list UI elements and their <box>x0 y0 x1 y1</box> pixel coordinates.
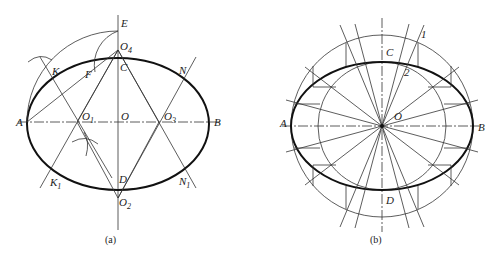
center-point-b <box>380 124 384 128</box>
line-o2-o3 <box>118 122 159 198</box>
figure-a: E O4 C K F N A O1 O O3 B K1 D N1 O2 (a) <box>15 15 221 246</box>
label-O2: O2 <box>119 196 131 211</box>
label-B: B <box>478 121 485 133</box>
label-A: A <box>279 117 287 129</box>
label-K: K <box>51 65 60 77</box>
label-D: D <box>385 194 394 206</box>
label-O4: O4 <box>120 40 132 55</box>
label-K1: K1 <box>49 176 61 191</box>
line-k-o2 <box>40 57 112 178</box>
label-C: C <box>120 61 128 73</box>
figure-b: C 1 2 A O B D (b) <box>279 18 485 246</box>
bisector-arc-bottom <box>72 138 98 144</box>
label-E: E <box>120 17 128 29</box>
ellipse-construction-figure: E O4 C K F N A O1 O O3 B K1 D N1 O2 (a) <box>0 0 499 261</box>
line-o2-o1 <box>77 122 118 198</box>
caption-b: (b) <box>370 234 382 246</box>
label-O3: O3 <box>164 110 176 125</box>
label-O1: O1 <box>82 110 94 125</box>
caption-a: (a) <box>105 234 116 246</box>
label-D: D <box>118 173 127 185</box>
label-2: 2 <box>404 66 410 78</box>
label-O: O <box>394 110 402 122</box>
label-B: B <box>214 116 221 128</box>
label-A: A <box>15 116 23 128</box>
label-N: N <box>178 64 187 76</box>
label-O: O <box>121 110 129 122</box>
label-C: C <box>386 46 394 58</box>
label-N1: N1 <box>178 175 190 190</box>
arc-a-to-e <box>27 31 118 122</box>
label-F: F <box>84 68 92 80</box>
label-1: 1 <box>421 28 427 40</box>
